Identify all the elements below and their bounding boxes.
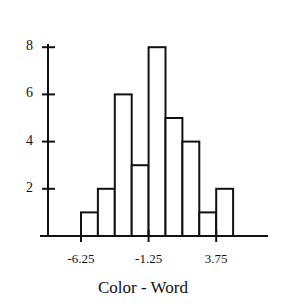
histogram-bar <box>115 94 132 236</box>
x-tick-label: -1.25 <box>129 251 169 267</box>
x-axis-label: Color - Word <box>0 278 286 298</box>
histogram-bar <box>81 212 98 236</box>
histogram-bar <box>182 142 199 236</box>
histogram-bar <box>149 47 166 236</box>
histogram-bars <box>81 47 233 236</box>
y-tick-label: 4 <box>26 133 33 149</box>
x-tick-label: -6.25 <box>61 251 101 267</box>
histogram-bar <box>199 212 216 236</box>
histogram-bar <box>98 189 115 236</box>
y-tick-label: 8 <box>26 38 33 54</box>
y-tick-label: 2 <box>26 180 33 196</box>
histogram-bar <box>166 118 183 236</box>
histogram-bar <box>132 165 149 236</box>
histogram-bar <box>216 189 233 236</box>
x-tick-label: 3.75 <box>196 251 236 267</box>
y-tick-label: 6 <box>26 85 33 101</box>
